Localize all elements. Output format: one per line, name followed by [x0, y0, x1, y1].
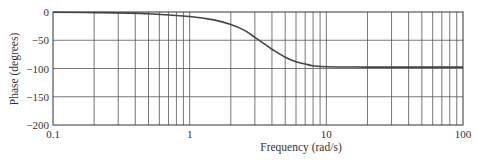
x-tick-label: 100: [455, 128, 472, 140]
y-tick-label: 0: [44, 6, 50, 18]
x-axis-label: Frequency (rad/s): [260, 141, 342, 154]
grid-lines: [53, 12, 463, 125]
y-tick-labels: 0−50−100−150−200: [26, 6, 49, 131]
x-tick-label: 0.1: [46, 128, 60, 140]
y-axis-label: Phase (degrees): [8, 33, 21, 106]
x-tick-labels: 0.1110100: [46, 128, 472, 140]
y-tick-label: −50: [32, 34, 50, 46]
y-tick-label: −100: [26, 63, 49, 75]
phase-curve: [53, 12, 463, 67]
x-tick-label: 1: [187, 128, 193, 140]
y-tick-label: −150: [26, 91, 49, 103]
x-tick-label: 10: [321, 128, 333, 140]
bode-phase-chart: 0−50−100−150−200 0.1110100 Frequency (ra…: [0, 0, 477, 161]
